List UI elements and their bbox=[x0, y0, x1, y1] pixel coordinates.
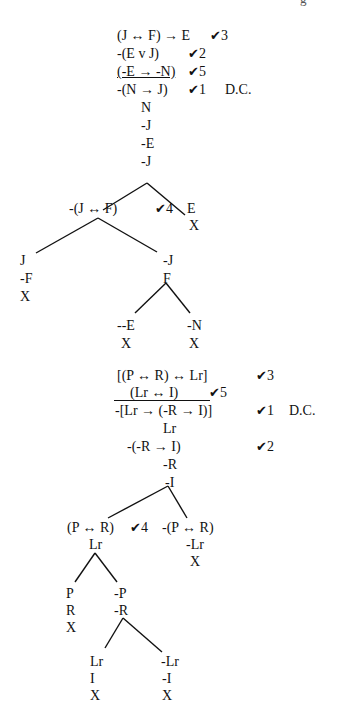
sub-right-line: -R bbox=[114, 603, 128, 619]
leaf-left-line: --E bbox=[117, 318, 135, 334]
check-icon: ✔ bbox=[209, 385, 220, 400]
trunk-line: -I bbox=[165, 475, 174, 491]
branch-right-line: -(P ↔ R) bbox=[162, 520, 214, 536]
check-icon: ✔ bbox=[130, 520, 141, 535]
check-icon: ✔ bbox=[188, 64, 199, 79]
closed-branch-x: X bbox=[162, 688, 172, 704]
closed-branch-x: X bbox=[189, 336, 199, 352]
closed-branch-x: X bbox=[66, 620, 76, 636]
closed-branch-x: X bbox=[189, 218, 199, 234]
closed-branch-x: X bbox=[20, 289, 30, 305]
check-icon: ✔ bbox=[188, 82, 199, 97]
check-mark-1: ✔3 bbox=[256, 368, 274, 384]
trunk-line: -E bbox=[141, 136, 154, 152]
check-icon: ✔ bbox=[188, 46, 199, 61]
sub-left-line: P bbox=[66, 586, 74, 602]
check-mark-4: ✔2 bbox=[256, 439, 274, 455]
sub-left-line: R bbox=[66, 603, 75, 619]
premise-2: -(E v J) bbox=[117, 46, 159, 62]
premise-2-underlined: (Lr ↔ I) bbox=[114, 385, 210, 401]
premise-1: [(P ↔ R) ↔ Lr] bbox=[117, 368, 207, 384]
trunk-line: -(-R → I) bbox=[127, 439, 181, 455]
check-icon: ✔ bbox=[155, 201, 166, 216]
premise-3: -[Lr → (-R → I)] bbox=[115, 403, 212, 419]
leaf-right-line: -I bbox=[162, 671, 171, 687]
premise-3-underlined: (-E → -N) bbox=[117, 64, 175, 80]
check-icon: ✔ bbox=[256, 368, 267, 383]
check-icon: ✔ bbox=[256, 439, 267, 454]
sub-right-line: -P bbox=[114, 586, 126, 602]
branch-right-line: E bbox=[187, 201, 196, 217]
trunk-line: Lr bbox=[163, 421, 176, 437]
branch-left-formula: (P ↔ R) bbox=[67, 520, 114, 536]
check-mark-3: ✔5 bbox=[188, 64, 206, 80]
sub-right-line: -J bbox=[163, 253, 173, 269]
trunk-line: -J bbox=[141, 118, 151, 134]
leaf-right-line: -N bbox=[187, 318, 202, 334]
closed-branch-x: X bbox=[190, 554, 200, 570]
check-mark-3: ✔1 bbox=[256, 403, 274, 419]
sub-right-line: F bbox=[163, 271, 171, 287]
premise-1: (J ↔ F) → E bbox=[117, 28, 190, 44]
leaf-left-line: Lr bbox=[90, 654, 103, 670]
check-mark-branch: ✔4 bbox=[155, 201, 173, 217]
branch-right-line: -Lr bbox=[186, 537, 204, 553]
trunk-line: N bbox=[141, 100, 151, 116]
denied-conclusion-label: D.C. bbox=[289, 403, 315, 419]
sub-left-line: J bbox=[20, 253, 25, 269]
sub-left-line: -F bbox=[20, 271, 32, 287]
closed-branch-x: X bbox=[121, 336, 131, 352]
check-mark-2: ✔2 bbox=[188, 46, 206, 62]
check-mark-1: ✔3 bbox=[210, 28, 228, 44]
check-icon: ✔ bbox=[210, 28, 221, 43]
premise-4: -(N → J) bbox=[117, 82, 168, 98]
tree-branch-lines bbox=[0, 0, 346, 724]
check-mark-4: ✔1 bbox=[188, 82, 206, 98]
check-icon: ✔ bbox=[256, 403, 267, 418]
closed-branch-x: X bbox=[90, 688, 100, 704]
leaf-right-line: -Lr bbox=[161, 654, 179, 670]
denied-conclusion-label: D.C. bbox=[225, 82, 251, 98]
trunk-line: -R bbox=[163, 457, 177, 473]
check-mark-2: ✔5 bbox=[209, 385, 227, 401]
check-mark-branch: ✔4 bbox=[130, 520, 148, 536]
branch-left-sub: Lr bbox=[89, 537, 102, 553]
leaf-left-line: I bbox=[90, 671, 95, 687]
branch-left-formula: -(J ↔ F) bbox=[69, 201, 117, 217]
trunk-line: -J bbox=[141, 154, 151, 170]
